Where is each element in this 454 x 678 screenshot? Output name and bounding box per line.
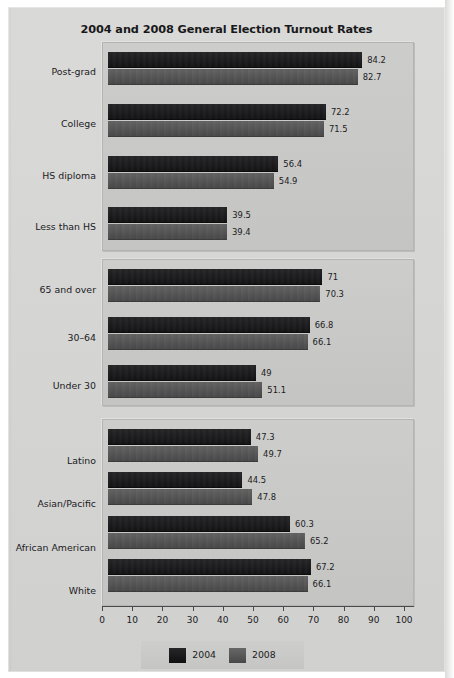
bar-row-30-64-2008: 66.1 bbox=[108, 334, 408, 350]
bar-row-african-american-2008: 65.2 bbox=[108, 533, 408, 549]
bar-african-american-2004[interactable] bbox=[108, 516, 290, 532]
bar-asian-pacific-2008[interactable] bbox=[108, 489, 252, 505]
bar-value-less-than-hs-2008: 39.4 bbox=[232, 225, 251, 239]
category-label-less-than-hs: Less than HS bbox=[8, 221, 96, 233]
bar-group-college: 72.2 71.5 bbox=[108, 104, 408, 138]
bar-less-than-hs-2008[interactable] bbox=[108, 224, 227, 240]
bar-value-post-grad-2008: 82.7 bbox=[363, 70, 382, 84]
x-axis-tick bbox=[374, 606, 375, 611]
bar-row-65-and-over-2004: 71 bbox=[108, 269, 408, 285]
bar-asian-pacific-2004[interactable] bbox=[108, 472, 242, 488]
category-label-white: White bbox=[8, 585, 96, 597]
bar-under-30-2008[interactable] bbox=[108, 382, 262, 398]
category-label-african-american: African American bbox=[8, 542, 96, 554]
bar-group-less-than-hs: 39.5 39.4 bbox=[108, 207, 408, 241]
bar-group-asian-pacific: 44.5 47.8 bbox=[108, 472, 408, 506]
x-axis-tick bbox=[344, 606, 345, 611]
bar-30-64-2004[interactable] bbox=[108, 317, 310, 333]
bar-value-under-30-2008: 51.1 bbox=[267, 383, 286, 397]
bar-value-hs-diploma-2008: 54.9 bbox=[279, 174, 298, 188]
bar-hs-diploma-2008[interactable] bbox=[108, 173, 274, 189]
bar-college-2004[interactable] bbox=[108, 104, 326, 120]
bar-hs-diploma-2004[interactable] bbox=[108, 156, 278, 172]
x-axis-tick bbox=[223, 606, 224, 611]
bar-less-than-hs-2004[interactable] bbox=[108, 207, 227, 223]
bar-row-white-2008: 66.1 bbox=[108, 576, 408, 592]
x-axis-tick-label: 100 bbox=[395, 614, 412, 626]
legend-item-2004[interactable]: 2004 bbox=[169, 648, 216, 663]
scan-edge-artifact bbox=[445, 0, 454, 678]
bar-group-hs-diploma: 56.4 54.9 bbox=[108, 156, 408, 190]
bar-row-post-grad-2008: 82.7 bbox=[108, 69, 408, 85]
category-label-asian-pacific: Asian/Pacific bbox=[8, 498, 96, 510]
category-label-30-64: 30–64 bbox=[8, 332, 96, 344]
bar-row-30-64-2004: 66.8 bbox=[108, 317, 408, 333]
bar-white-2008[interactable] bbox=[108, 576, 308, 592]
bar-value-latino-2008: 49.7 bbox=[263, 447, 282, 461]
bar-30-64-2008[interactable] bbox=[108, 334, 308, 350]
category-label-hs-diploma: HS diploma bbox=[8, 170, 96, 182]
x-axis-tick-label: 0 bbox=[99, 614, 105, 626]
x-axis-tick bbox=[162, 606, 163, 611]
bar-value-white-2008: 66.1 bbox=[313, 577, 332, 591]
bar-value-65-and-over-2008: 70.3 bbox=[325, 287, 344, 301]
category-label-65-and-over: 65 and over bbox=[8, 284, 96, 296]
bar-row-under-30-2004: 49 bbox=[108, 365, 408, 381]
bar-value-65-and-over-2004: 71 bbox=[327, 270, 338, 284]
category-axis-labels: Post-grad College HS diploma Less than H… bbox=[8, 7, 96, 672]
bar-value-post-grad-2004: 84.2 bbox=[367, 53, 386, 67]
x-axis-tick-label: 40 bbox=[217, 614, 228, 626]
legend-label-2004: 2004 bbox=[192, 649, 216, 661]
bar-white-2004[interactable] bbox=[108, 559, 311, 575]
legend-item-2008[interactable]: 2008 bbox=[229, 648, 276, 663]
bar-row-latino-2004: 47.3 bbox=[108, 429, 408, 445]
bar-row-hs-diploma-2008: 54.9 bbox=[108, 173, 408, 189]
x-axis-tick bbox=[102, 606, 103, 611]
bar-group-white: 67.2 66.1 bbox=[108, 559, 408, 593]
x-axis-tick-label: 90 bbox=[368, 614, 379, 626]
bar-value-under-30-2004: 49 bbox=[261, 366, 272, 380]
category-label-college: College bbox=[8, 118, 96, 130]
bar-post-grad-2008[interactable] bbox=[108, 69, 358, 85]
bar-latino-2004[interactable] bbox=[108, 429, 251, 445]
bar-65-and-over-2004[interactable] bbox=[108, 269, 322, 285]
x-axis-tick-label: 60 bbox=[277, 614, 288, 626]
x-axis-tick-label: 50 bbox=[247, 614, 258, 626]
bar-row-less-than-hs-2004: 39.5 bbox=[108, 207, 408, 223]
bar-value-college-2004: 72.2 bbox=[331, 105, 350, 119]
bar-value-college-2008: 71.5 bbox=[329, 122, 348, 136]
x-axis-tick-label: 20 bbox=[157, 614, 168, 626]
x-axis-tick-label: 10 bbox=[126, 614, 137, 626]
bar-value-white-2004: 67.2 bbox=[316, 560, 335, 574]
bar-group-under-30: 49 51.1 bbox=[108, 365, 408, 399]
bar-group-african-american: 60.3 65.2 bbox=[108, 516, 408, 550]
legend-swatch-2004-icon bbox=[169, 648, 186, 663]
bar-college-2008[interactable] bbox=[108, 121, 324, 137]
bar-value-asian-pacific-2004: 44.5 bbox=[247, 473, 266, 487]
bar-row-college-2008: 71.5 bbox=[108, 121, 408, 137]
bar-row-less-than-hs-2008: 39.4 bbox=[108, 224, 408, 240]
bar-65-and-over-2008[interactable] bbox=[108, 286, 320, 302]
bar-latino-2008[interactable] bbox=[108, 446, 258, 462]
bar-row-asian-pacific-2008: 47.8 bbox=[108, 489, 408, 505]
bar-african-american-2008[interactable] bbox=[108, 533, 305, 549]
bar-value-30-64-2008: 66.1 bbox=[313, 335, 332, 349]
bar-value-30-64-2004: 66.8 bbox=[315, 318, 334, 332]
bar-post-grad-2004[interactable] bbox=[108, 52, 362, 68]
x-axis: 0102030405060708090100 bbox=[102, 606, 414, 636]
bar-value-asian-pacific-2008: 47.8 bbox=[257, 490, 276, 504]
x-axis-tick bbox=[253, 606, 254, 611]
bar-under-30-2004[interactable] bbox=[108, 365, 256, 381]
x-axis-tick bbox=[313, 606, 314, 611]
x-axis-tick bbox=[132, 606, 133, 611]
bar-row-latino-2008: 49.7 bbox=[108, 446, 408, 462]
bar-row-african-american-2004: 60.3 bbox=[108, 516, 408, 532]
category-label-post-grad: Post-grad bbox=[8, 66, 96, 78]
category-label-latino: Latino bbox=[8, 455, 96, 467]
x-axis-tick-label: 30 bbox=[187, 614, 198, 626]
x-axis-tick-label: 80 bbox=[338, 614, 349, 626]
bar-group-post-grad: 84.2 82.7 bbox=[108, 52, 408, 86]
x-axis-tick bbox=[283, 606, 284, 611]
bar-value-less-than-hs-2004: 39.5 bbox=[232, 208, 251, 222]
bar-group-30-64: 66.8 66.1 bbox=[108, 317, 408, 351]
